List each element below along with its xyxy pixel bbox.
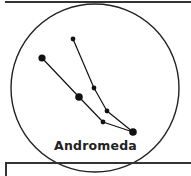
constellation-line — [73, 39, 94, 88]
bottom-panel-border — [5, 162, 191, 176]
star-icon — [105, 109, 110, 114]
star-icon — [75, 93, 83, 101]
star-icon — [38, 54, 45, 61]
star-icon — [92, 86, 97, 91]
star-icon — [71, 37, 76, 42]
constellation-label: Andromeda — [0, 138, 191, 153]
constellation-line — [94, 88, 107, 111]
constellation-line — [42, 58, 79, 97]
constellation-line — [107, 111, 133, 132]
star-icon — [129, 128, 137, 136]
star-icon — [101, 120, 106, 125]
constellation-lines — [42, 39, 133, 132]
constellation-line — [79, 97, 103, 122]
constellation-stars — [38, 37, 136, 136]
constellation-line — [103, 122, 133, 132]
